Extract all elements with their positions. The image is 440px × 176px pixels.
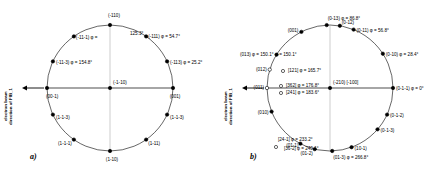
pole-label: (013) φ = 150.1°: [240, 52, 274, 57]
pole-label: (00-1): [46, 95, 58, 100]
center-pole-label: (-1-10): [113, 81, 127, 86]
pole-label: (10-1): [355, 147, 367, 152]
pole-label: (1-11): [148, 141, 160, 146]
pole-label: (0-1-1) φ = 0°: [396, 87, 424, 92]
beam-direction-caption-b: electron beam direction of FIB_1: [223, 88, 234, 125]
pole-label: (1-10): [106, 158, 118, 163]
pole-label: (-113) φ = 25.2°: [170, 61, 202, 66]
pole-label: (001): [170, 95, 181, 100]
pole-label: (0-11) φ = 56.8°: [357, 28, 389, 33]
pole-label: (010): [258, 110, 269, 115]
pole-label: (1-1-3): [170, 115, 184, 120]
panel-letter-b: b): [250, 152, 257, 161]
annotation-label: 125.3°: [130, 32, 143, 37]
panel-a: electron beam direction of FIB_1 a) (-11…: [0, 0, 220, 176]
pole-label: (011): [254, 86, 264, 91]
pole-label: (1-1-3): [56, 115, 70, 120]
annotation-label: [24-1] φ = 233.2°: [278, 138, 313, 143]
annotation-label: [241] φ = 183.6°: [286, 91, 319, 96]
pole-label: (0-10) φ = 28.4°: [386, 52, 419, 57]
pole-label: (1-1-1): [58, 141, 72, 146]
pole-label: (01-3) φ = 266.8°: [333, 156, 368, 161]
panel-a-diagram: [0, 0, 220, 176]
annotation-label: [362] φ = 176.8°: [286, 84, 319, 89]
pole-label: (-11-3) φ = 154.8°: [56, 61, 92, 66]
pole-label: (0-1-3): [381, 129, 395, 134]
pole-label: (012): [256, 67, 267, 72]
beam-direction-caption-a: electron beam direction of FIB_1: [3, 88, 14, 125]
pole-label: (01-2): [300, 152, 312, 157]
pole-label: (001): [288, 29, 299, 34]
annotation-label: [36-2] φ = 240.1°: [284, 147, 319, 152]
annotation-label: [121] φ = 165.7°: [288, 69, 321, 74]
pole-label: (0-1-2): [390, 113, 404, 118]
pole-label: (-11-1) φ =: [76, 36, 98, 41]
panel-letter-a: a): [30, 152, 37, 161]
panel-b: electron beam direction of FIB_1 b) (0-1…: [220, 0, 440, 176]
pole-label: (0-12): [342, 20, 354, 25]
pole-label: (-110): [108, 14, 120, 19]
stereographic-projection-figure: electron beam direction of FIB_1 a) (-11…: [0, 0, 440, 176]
annotation-label: φ = 150.1°: [275, 53, 297, 58]
pole-label: (-111) φ = 54.7°: [148, 35, 180, 40]
center-pole-label: (-210) [-100]: [333, 81, 358, 86]
